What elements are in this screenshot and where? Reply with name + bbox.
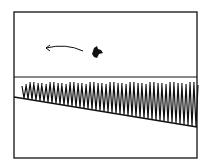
flying-creature-icon — [92, 46, 103, 58]
motion-arrow-icon — [46, 45, 83, 51]
grass-row — [22, 82, 198, 127]
sketch-canvas — [0, 0, 208, 167]
